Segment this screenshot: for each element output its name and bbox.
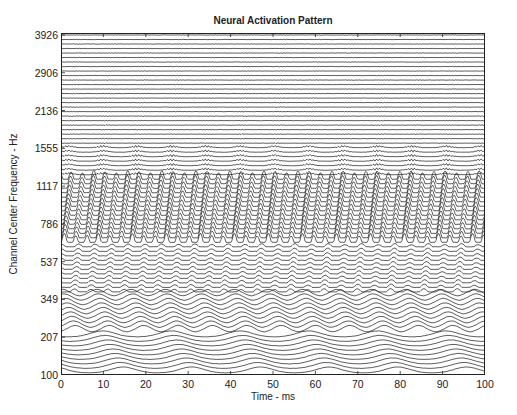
y-tick-label: 207 xyxy=(40,331,58,343)
channel-trace xyxy=(61,325,485,332)
y-tick-label: 2136 xyxy=(35,105,58,117)
channel-trace xyxy=(61,125,485,126)
channel-trace xyxy=(61,307,485,314)
channel-trace xyxy=(61,262,485,265)
x-tick-label: 0 xyxy=(58,378,64,390)
channel-trace xyxy=(61,168,485,170)
channel-trace xyxy=(61,244,485,247)
channel-trace xyxy=(61,266,485,269)
channel-trace xyxy=(61,154,485,156)
channel-trace xyxy=(61,48,485,49)
channel-trace xyxy=(61,159,485,161)
channel-trace xyxy=(61,89,485,90)
y-tick-label: 349 xyxy=(40,293,58,305)
channel-trace xyxy=(61,331,485,337)
channel-trace xyxy=(61,275,485,278)
channel-trace xyxy=(61,294,485,301)
y-tick-label: 1555 xyxy=(35,142,58,154)
channel-trace xyxy=(61,284,485,287)
x-tick-label: 20 xyxy=(140,378,152,390)
channel-trace xyxy=(61,107,485,108)
channel-trace xyxy=(61,134,485,135)
channel-trace xyxy=(61,138,485,139)
y-tick-label: 786 xyxy=(40,218,58,230)
channel-trace xyxy=(61,143,485,144)
x-tick-label: 90 xyxy=(437,378,449,390)
channel-trace xyxy=(61,248,485,251)
channel-trace xyxy=(61,298,485,305)
channel-trace xyxy=(61,145,485,147)
x-tick-label: 60 xyxy=(310,378,322,390)
channel-trace xyxy=(61,150,485,152)
channel-trace xyxy=(61,44,485,45)
channel-trace xyxy=(61,66,485,67)
x-axis-label: Time - ms xyxy=(61,391,485,402)
channel-trace xyxy=(61,75,485,76)
channel-trace xyxy=(61,129,485,130)
channel-trace xyxy=(61,120,485,121)
channel-trace xyxy=(61,80,485,81)
channel-trace xyxy=(61,116,485,117)
y-tick-label: 537 xyxy=(40,256,58,268)
channel-trace xyxy=(61,164,485,166)
y-tick-label: 2906 xyxy=(35,67,58,79)
channel-trace xyxy=(61,344,485,350)
x-tick-label: 10 xyxy=(98,378,110,390)
channel-trace xyxy=(61,321,485,328)
channel-trace xyxy=(61,280,485,283)
y-tick-label: 100 xyxy=(40,369,58,381)
x-tick-label: 30 xyxy=(182,378,194,390)
x-tick-label: 100 xyxy=(476,378,494,390)
channel-trace xyxy=(61,93,485,94)
channel-trace xyxy=(61,257,485,260)
channel-trace xyxy=(61,53,485,54)
channel-trace xyxy=(61,193,485,202)
y-tick-label: 3926 xyxy=(35,29,58,41)
y-tick-label: 1117 xyxy=(36,180,58,192)
channel-trace xyxy=(61,362,485,368)
channel-trace xyxy=(61,57,485,58)
channel-trace xyxy=(61,39,485,40)
channel-trace xyxy=(61,111,485,112)
y-axis-label: Channel Center Frequency - Hz xyxy=(8,133,19,274)
channel-trace xyxy=(61,71,485,72)
x-tick-label: 70 xyxy=(352,378,364,390)
channel-trace xyxy=(61,84,485,85)
x-tick-label: 50 xyxy=(267,378,279,390)
plot-area xyxy=(61,33,485,375)
channel-trace xyxy=(61,102,485,103)
x-tick-label: 80 xyxy=(394,378,406,390)
channel-trace xyxy=(61,188,485,197)
channel-trace xyxy=(61,211,485,220)
channel-trace xyxy=(61,62,485,63)
channel-trace xyxy=(61,253,485,256)
x-tick-label: 40 xyxy=(225,378,237,390)
channel-trace xyxy=(61,98,485,99)
waveform-canvas xyxy=(61,33,485,375)
chart-title: Neural Activation Pattern xyxy=(61,15,485,26)
channel-trace xyxy=(61,271,485,274)
